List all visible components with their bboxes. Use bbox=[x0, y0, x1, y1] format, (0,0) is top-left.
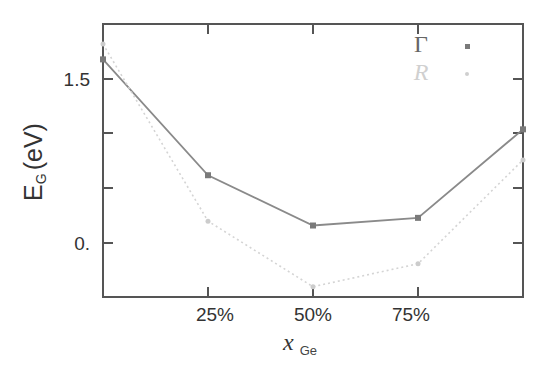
y-ticks bbox=[103, 79, 523, 243]
data-point bbox=[206, 219, 211, 224]
xtick-label-50: 50% bbox=[294, 304, 332, 325]
x-ticks bbox=[208, 24, 418, 297]
data-point bbox=[311, 284, 316, 289]
data-point bbox=[520, 126, 526, 132]
ylabel-main: E bbox=[19, 184, 47, 201]
ylabel-unit: (eV) bbox=[19, 123, 47, 170]
ytick-label-1.5: 1.5 bbox=[64, 69, 90, 90]
x-axis-label: xGe bbox=[282, 329, 317, 358]
data-point bbox=[521, 157, 526, 162]
legend-label-r: R bbox=[413, 59, 429, 85]
series-layer bbox=[100, 42, 526, 290]
data-point bbox=[205, 172, 211, 178]
legend-label-gamma: Γ bbox=[414, 31, 428, 57]
xlabel-main: x bbox=[282, 329, 294, 355]
data-point bbox=[416, 261, 421, 266]
band-gap-chart: 1.5 0. 25% 50% 75% EG(eV) xGe Γ R bbox=[0, 0, 540, 366]
series-line-r bbox=[103, 44, 523, 287]
legend: Γ R bbox=[413, 31, 470, 85]
data-point bbox=[101, 42, 106, 47]
legend-marker-gamma bbox=[465, 44, 470, 49]
legend-marker-r bbox=[465, 72, 469, 76]
xlabel-sub: Ge bbox=[300, 343, 317, 358]
y-axis-label: EG(eV) bbox=[19, 123, 49, 201]
xtick-label-75: 75% bbox=[392, 304, 430, 325]
data-point bbox=[100, 56, 106, 62]
data-point bbox=[310, 223, 316, 229]
ylabel-sub: G bbox=[33, 173, 49, 184]
plot-frame bbox=[103, 24, 523, 297]
svg-text:EG(eV): EG(eV) bbox=[19, 123, 49, 201]
data-point bbox=[415, 215, 421, 221]
series-line-gamma bbox=[103, 59, 523, 225]
ytick-label-0: 0. bbox=[74, 233, 90, 254]
xtick-label-25: 25% bbox=[196, 304, 234, 325]
